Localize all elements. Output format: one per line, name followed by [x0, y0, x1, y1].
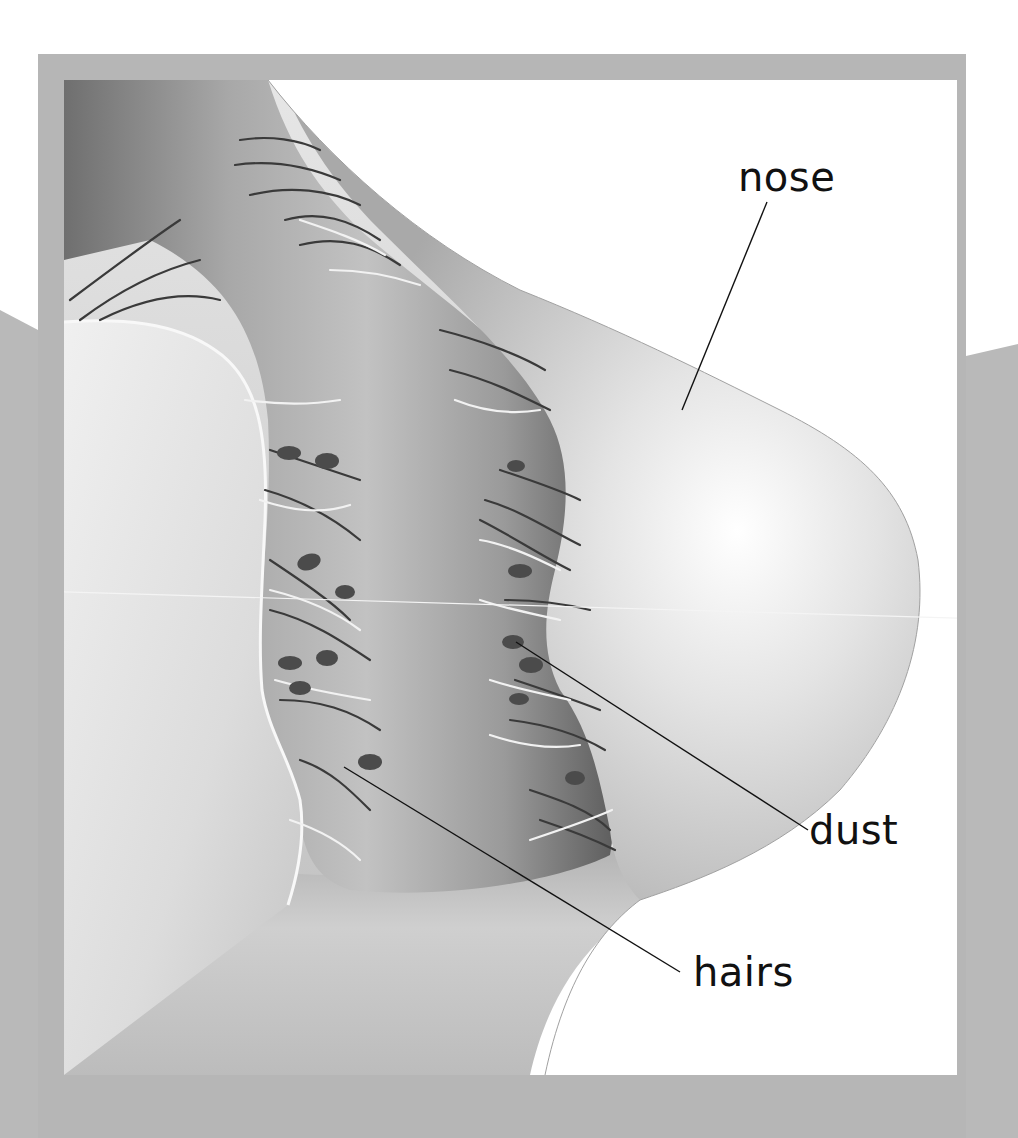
diagram-illustration: [0, 0, 1018, 1138]
label-dust: dust: [809, 810, 898, 850]
label-hairs: hairs: [693, 952, 794, 992]
nose-diagram: nose dust hairs: [0, 0, 1018, 1138]
label-nose: nose: [738, 157, 835, 197]
